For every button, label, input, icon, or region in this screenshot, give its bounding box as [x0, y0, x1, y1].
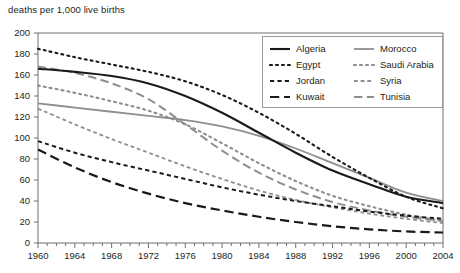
legend-item-kuwait[interactable]: Kuwait [269, 89, 353, 105]
line-chart: deaths per 1,000 live births AlgeriaMoro… [0, 0, 460, 273]
x-tick-label: 1972 [128, 250, 168, 261]
legend-item-algeria[interactable]: Algeria [269, 41, 353, 57]
y-tick-label: 80 [2, 153, 30, 164]
x-tick-label: 2004 [423, 250, 460, 261]
legend-item-jordan[interactable]: Jordan [269, 73, 353, 89]
legend-swatch-jordan [269, 76, 291, 86]
series-line-syria [38, 109, 443, 223]
x-tick-label: 1968 [92, 250, 132, 261]
legend-swatch-syria [353, 76, 375, 86]
y-tick-label: 160 [2, 69, 30, 80]
y-tick-label: 60 [2, 174, 30, 185]
legend-swatch-algeria [269, 44, 291, 54]
x-tick-label: 1996 [349, 250, 389, 261]
y-tick-label: 100 [2, 132, 30, 143]
legend-swatch-tunisia [353, 92, 375, 102]
legend-label: Tunisia [380, 92, 410, 102]
legend-item-morocco[interactable]: Morocco [353, 41, 443, 57]
legend-label: Saudi Arabia [380, 60, 434, 70]
x-tick-label: 1964 [55, 250, 95, 261]
legend-item-egypt[interactable]: Egypt [269, 57, 353, 73]
legend-item-tunisia[interactable]: Tunisia [353, 89, 443, 105]
chart-legend: AlgeriaMoroccoEgyptSaudi ArabiaJordanSyr… [262, 36, 443, 108]
legend-label: Algeria [296, 44, 326, 54]
x-tick-label: 1988 [276, 250, 316, 261]
legend-item-saudi-arabia[interactable]: Saudi Arabia [353, 57, 443, 73]
x-tick-label: 1992 [313, 250, 353, 261]
legend-grid: AlgeriaMoroccoEgyptSaudi ArabiaJordanSyr… [269, 41, 443, 105]
y-tick-label: 180 [2, 48, 30, 59]
x-tick-label: 1980 [202, 250, 242, 261]
y-tick-label: 120 [2, 111, 30, 122]
legend-swatch-saudi-arabia [353, 60, 375, 70]
legend-swatch-egypt [269, 60, 291, 70]
y-tick-label: 20 [2, 216, 30, 227]
legend-label: Morocco [380, 44, 416, 54]
y-tick-label: 0 [2, 237, 30, 248]
legend-label: Syria [380, 76, 402, 86]
legend-label: Kuwait [296, 92, 325, 102]
legend-label: Egypt [296, 60, 320, 70]
x-tick-label: 1984 [239, 250, 279, 261]
x-tick-label: 1960 [18, 250, 58, 261]
y-tick-label: 200 [2, 27, 30, 38]
x-tick-label: 1976 [165, 250, 205, 261]
legend-label: Jordan [296, 76, 325, 86]
legend-item-syria[interactable]: Syria [353, 73, 443, 89]
y-tick-label: 40 [2, 195, 30, 206]
legend-swatch-kuwait [269, 92, 291, 102]
legend-swatch-morocco [353, 44, 375, 54]
x-tick-label: 2000 [386, 250, 426, 261]
y-tick-label: 140 [2, 90, 30, 101]
series-line-morocco [38, 103, 443, 201]
